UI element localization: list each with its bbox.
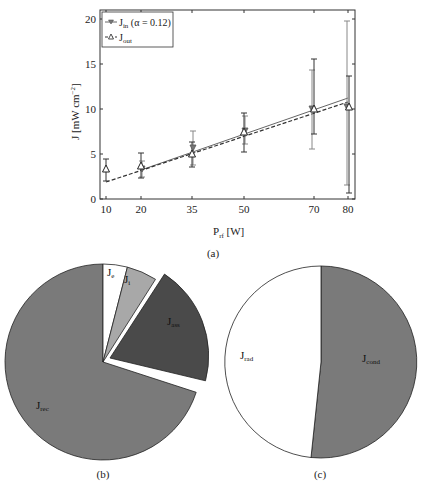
x-tick-label: 10: [101, 203, 113, 215]
line-chart-panel-a: 0 5 10 15 20 10 20 35 50 70 80 Prf [W] J…: [69, 10, 355, 260]
x-tick-label: 70: [309, 203, 321, 215]
pie-slice-j-rad: [225, 266, 321, 458]
error-bars-j-out: [103, 59, 352, 193]
x-tick-label: 20: [136, 203, 148, 215]
caption-b: (b): [97, 468, 110, 481]
x-tick-label: 80: [343, 203, 355, 215]
caption-c: (c): [314, 468, 327, 481]
x-tick-label: 35: [187, 203, 199, 215]
x-axis-label: Prf [W]: [213, 225, 244, 240]
y-tick-label: 0: [91, 193, 97, 205]
legend: Jin (α = 0.12) Jout: [102, 12, 173, 47]
pie-chart-panel-c: Jrad Jcond (c): [225, 266, 417, 481]
caption-a: (a): [207, 247, 220, 260]
y-tick-label: 5: [91, 148, 97, 160]
y-axis-label: J [mW cm−2]: [69, 83, 81, 140]
pie-chart-panel-b: Je Ji Jass Jrec (b): [5, 264, 209, 481]
y-tick-label: 15: [85, 58, 97, 70]
y-tick-label: 10: [85, 103, 97, 115]
y-tick-label: 20: [85, 13, 97, 25]
x-tick-label: 50: [239, 203, 251, 215]
figure: 0 5 10 15 20 10 20 35 50 70 80 Prf [W] J…: [0, 0, 429, 489]
